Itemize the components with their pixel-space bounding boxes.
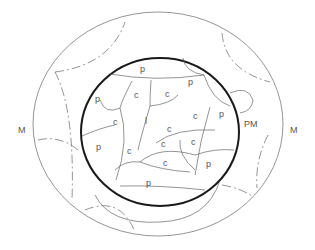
label-meristem-left: M [18,125,26,135]
inner-boundary [81,58,239,206]
label-central: c [161,139,166,149]
outer-dashed-arc-top-right [222,33,270,82]
outer-dashed-arc-left [55,72,72,200]
label-peripheral: p [96,142,101,152]
label-peripheral: p [188,77,193,87]
label-peripheral: p [140,64,145,74]
label-central: c [193,111,198,121]
outer-dashed-arc-top-left [55,22,125,72]
outer-dashed-arc-bottom-right [222,185,252,196]
promeristem-bump [230,90,253,113]
label-peripheral: p [206,159,211,169]
label-central: c [165,89,170,99]
cell-wall [140,150,234,162]
label-promeristem: PM [244,119,258,129]
cell-wall [100,100,124,180]
label-peripheral: p [95,94,100,104]
cell-wall [115,162,140,170]
label-central: c [167,124,172,134]
cell-diagram: M M PM p p p p p p p c c c c c c c c c l [0,0,315,250]
label-peripheral: p [146,178,151,188]
cell-wall [120,186,205,190]
label-central: c [127,146,132,156]
outer-dashed-arc-bottom [85,206,135,232]
label-peripheral: p [219,109,224,119]
label-central: c [113,117,118,127]
label-meristem-right: M [290,125,298,135]
cell-wall [82,125,115,136]
label-inner: l [145,116,147,126]
outer-dashed-arc-left-mid [38,139,78,150]
cell-wall [138,80,151,150]
label-central: c [163,158,168,168]
label-central: c [134,90,139,100]
label-central: c [191,137,196,147]
cell-wall [150,95,178,106]
cell-wall [120,81,132,108]
